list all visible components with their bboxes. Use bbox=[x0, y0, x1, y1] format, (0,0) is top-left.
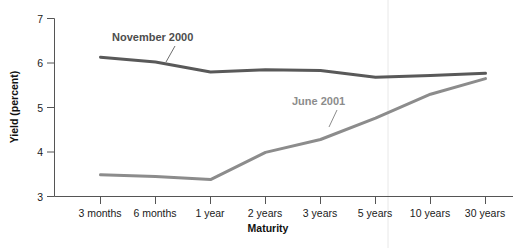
leader-line-november bbox=[166, 46, 175, 62]
y-tick-label-3: 3 bbox=[37, 191, 43, 203]
y-tick-label-4: 4 bbox=[37, 146, 43, 158]
x-tick-label-3-years: 3 years bbox=[303, 207, 337, 219]
x-tick-label-3-months: 3 months bbox=[78, 207, 121, 219]
y-axis-ticks bbox=[47, 19, 55, 197]
yield-curve-chart: 7 6 5 4 3 3 months 6 months 1 year 2 yea… bbox=[0, 0, 517, 248]
x-tick-label-6-months: 6 months bbox=[133, 207, 176, 219]
y-tick-label-5: 5 bbox=[37, 102, 43, 114]
y-tick-label-6: 6 bbox=[37, 57, 43, 69]
series-annotation-november-2000: November 2000 bbox=[112, 31, 193, 43]
x-tick-label-2-years: 2 years bbox=[248, 207, 282, 219]
x-tick-label-1-year: 1 year bbox=[195, 207, 224, 219]
leader-line-june bbox=[329, 110, 337, 127]
series-annotation-june-2001: June 2001 bbox=[292, 95, 345, 107]
x-tick-label-5-years: 5 years bbox=[358, 207, 392, 219]
x-tick-label-10-years: 10 years bbox=[410, 207, 450, 219]
y-tick-label-7: 7 bbox=[37, 13, 43, 25]
series-line-june-2001 bbox=[101, 79, 486, 180]
y-axis-title: Yield (percent) bbox=[8, 71, 20, 144]
x-axis-ticks bbox=[101, 197, 486, 205]
x-axis-title: Maturity bbox=[248, 222, 289, 234]
series-line-november-2000 bbox=[101, 57, 486, 77]
x-tick-label-30-years: 30 years bbox=[465, 207, 505, 219]
